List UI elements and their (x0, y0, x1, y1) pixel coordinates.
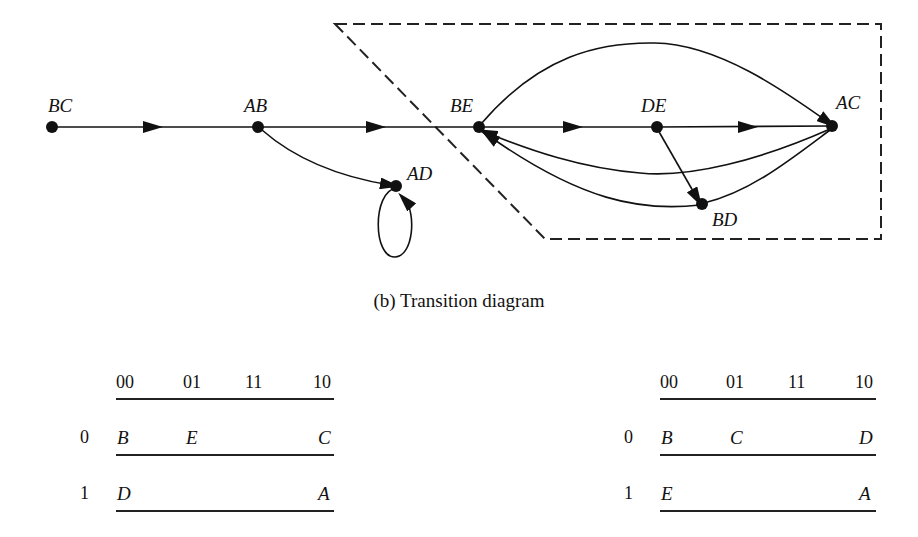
edge-ac-bd (704, 130, 830, 203)
column-header: 11 (245, 372, 262, 393)
column-header: 00 (660, 372, 678, 393)
node-label-ad: AD (405, 163, 433, 184)
column-header: 10 (855, 372, 873, 393)
table-cell: D (859, 427, 873, 449)
node-label-be: BE (450, 95, 474, 116)
node-ad (390, 180, 402, 192)
table-cell: E (661, 483, 673, 505)
edge-ab-ad (262, 130, 390, 185)
edge-de-bd (658, 130, 697, 198)
table-rule (660, 510, 876, 512)
table-cell: C (318, 427, 331, 449)
node-label-ac: AC (834, 92, 861, 113)
table-rule (660, 398, 876, 400)
arrowhead-icon (738, 121, 758, 133)
node-label-bd: BD (712, 209, 738, 230)
table-cell: C (730, 427, 743, 449)
edge-ad-loop (378, 188, 411, 257)
table-rule (116, 510, 334, 512)
node-label-bc: BC (48, 95, 73, 116)
table-cell: B (117, 427, 129, 449)
column-header: 10 (313, 372, 331, 393)
node-bc (46, 121, 58, 133)
table-cell: E (186, 427, 198, 449)
table-rule (116, 454, 334, 456)
row-label: 1 (80, 483, 89, 504)
node-label-ab: AB (242, 95, 268, 116)
table-cell: A (318, 483, 330, 505)
node-bd (696, 198, 708, 210)
column-header: 01 (183, 372, 201, 393)
column-header: 11 (788, 372, 805, 393)
row-label: 1 (624, 483, 633, 504)
node-be (473, 121, 485, 133)
column-header: 00 (116, 372, 134, 393)
table-rule (116, 398, 334, 400)
node-label-de: DE (640, 95, 667, 116)
dashed-enclosure (335, 24, 881, 239)
row-label: 0 (80, 427, 89, 448)
arrowhead-icon (366, 121, 386, 133)
node-ac (826, 120, 838, 132)
column-header: 01 (726, 372, 744, 393)
table-cell: B (661, 427, 673, 449)
figure-caption: (b) Transition diagram (0, 290, 918, 312)
arrowhead-icon (563, 121, 583, 133)
row-label: 0 (624, 427, 633, 448)
transition-diagram: BC AB BE DE AC AD BD (0, 0, 918, 280)
arrowhead-icon (143, 121, 163, 133)
node-de (651, 121, 663, 133)
table-rule (660, 454, 876, 456)
table-cell: D (117, 483, 131, 505)
table-cell: A (859, 483, 871, 505)
node-ab (252, 121, 264, 133)
